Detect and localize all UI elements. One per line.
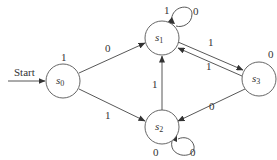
edge-s0-s1: 0	[79, 42, 145, 73]
state-s3: s3 0	[242, 48, 276, 96]
svg-text:1: 1	[152, 78, 158, 90]
output-s0: 1	[61, 51, 67, 63]
edge-s3-s1: 1	[178, 48, 242, 76]
edge-s2-s1: 1	[152, 56, 162, 110]
start-label: Start	[14, 66, 35, 78]
svg-text:1: 1	[105, 109, 111, 121]
edge-s1-loop: 0	[167, 5, 199, 27]
svg-text:0: 0	[209, 100, 215, 112]
start-arrow: Start	[8, 66, 45, 81]
edge-s3-s2: 0	[178, 89, 245, 121]
svg-text:0: 0	[190, 146, 196, 158]
svg-text:0: 0	[193, 5, 199, 17]
output-s3: 0	[268, 48, 274, 60]
edge-s0-s2: 1	[79, 89, 145, 121]
svg-text:1: 1	[206, 60, 212, 72]
state-diagram: Start 0 1 0 1 1 1 0 0 s0 1 s	[0, 0, 277, 160]
state-s1: s1 1	[145, 4, 179, 55]
state-s0: s0 1	[46, 51, 80, 98]
svg-text:1: 1	[208, 36, 214, 48]
svg-text:0: 0	[105, 42, 111, 54]
output-s1: 1	[164, 4, 170, 16]
output-s2: 0	[153, 146, 159, 158]
